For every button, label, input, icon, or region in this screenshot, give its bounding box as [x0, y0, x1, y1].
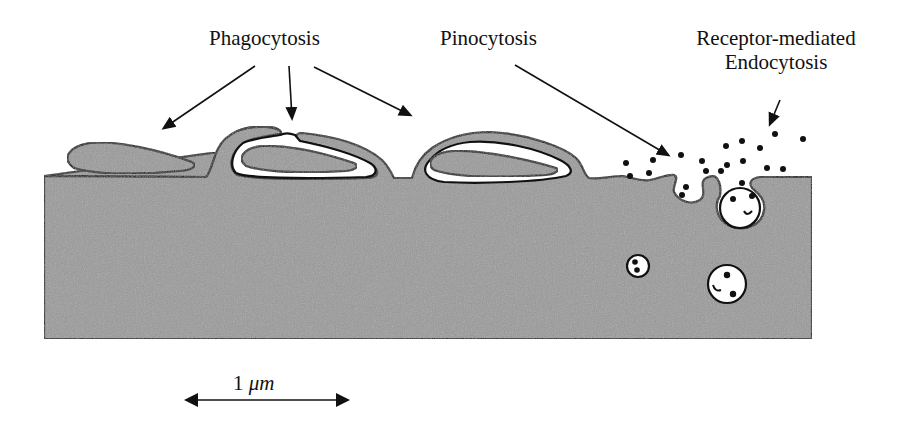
scale-bar-unit: μm — [249, 371, 275, 395]
pinocytic-vesicle — [627, 255, 649, 277]
scale-bar-value: 1 — [233, 371, 244, 395]
receptor-label-line2: Endocytosis — [666, 50, 886, 74]
scale-bar-label: 1 μm — [233, 371, 274, 395]
phago-arrow-right — [314, 67, 410, 115]
phagocytosis-label: Phagocytosis — [209, 26, 320, 50]
phago-arrow-left — [164, 66, 255, 128]
receptor-mediated-label: Receptor-mediated Endocytosis — [666, 26, 886, 74]
pinocytosis-label: Pinocytosis — [440, 26, 537, 50]
rme-arrow — [770, 100, 780, 124]
endocytosis-diagram: Phagocytosis Pinocytosis Receptor-mediat… — [0, 0, 917, 423]
receptor-label-line1: Receptor-mediated — [666, 26, 886, 50]
receptor-vesicle — [708, 265, 746, 303]
phago-arrow-middle — [289, 66, 292, 118]
particle-free — [67, 142, 194, 173]
